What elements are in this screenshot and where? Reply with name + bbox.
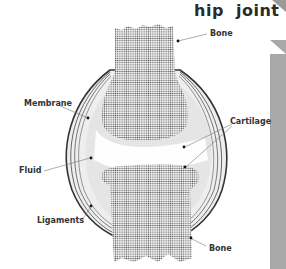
label-bone-top: Bone <box>210 29 233 38</box>
label-fluid: Fluid <box>19 166 41 175</box>
upper-bone <box>102 24 189 140</box>
lower-bone <box>101 164 199 262</box>
label-cartilage: Cartilage <box>230 117 271 126</box>
hip-joint-diagram <box>0 0 286 269</box>
label-ligaments: Ligaments <box>37 216 84 225</box>
label-membrane: Membrane <box>24 99 72 108</box>
label-bone-bottom: Bone <box>209 244 232 253</box>
